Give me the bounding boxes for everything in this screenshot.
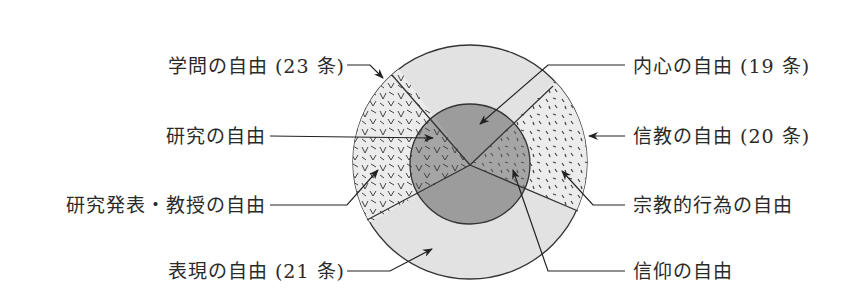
label-religious-act-freedom: 宗教的行為の自由 bbox=[633, 194, 793, 216]
label-academic-freedom: 学問の自由 (23 条) bbox=[168, 55, 345, 77]
label-inner-freedom: 内心の自由 (19 条) bbox=[633, 55, 810, 77]
label-expression-freedom: 表現の自由 (21 条) bbox=[168, 260, 345, 282]
label-religious-freedom: 信教の自由 (20 条) bbox=[633, 125, 810, 147]
leader-academic bbox=[347, 65, 383, 78]
label-faith-freedom: 信仰の自由 bbox=[633, 260, 733, 282]
label-research-publication-teaching: 研究発表・教授の自由 bbox=[66, 194, 266, 216]
label-research-freedom: 研究の自由 bbox=[166, 125, 266, 147]
freedom-diagram bbox=[0, 0, 863, 308]
